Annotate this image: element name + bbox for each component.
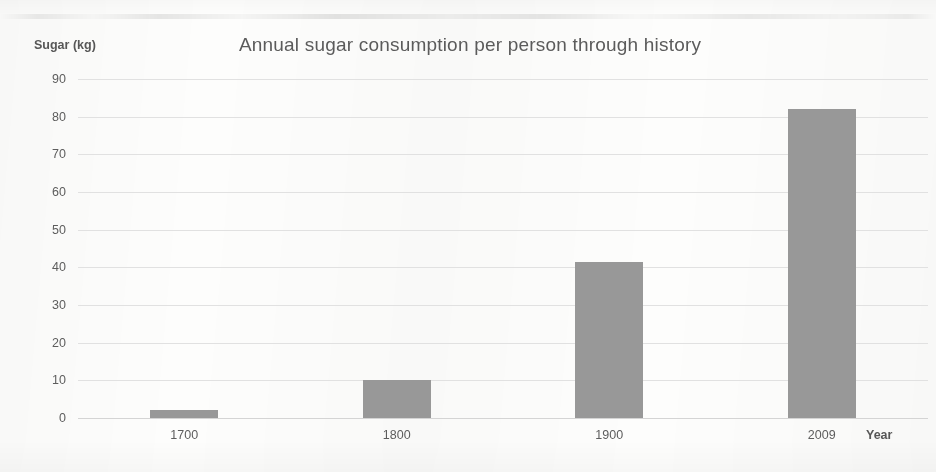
y-axis-tick-label: 90 [26,72,66,86]
bar-1800 [363,380,431,418]
y-axis-tick-label: 80 [26,110,66,124]
x-axis-tick-label: 1700 [170,428,198,442]
y-axis-tick-label: 50 [26,223,66,237]
bar-1700 [150,410,218,418]
x-axis-tick-label: 1900 [595,428,623,442]
x-axis-tick-label: 2009 [808,428,836,442]
chart-title: Annual sugar consumption per person thro… [150,34,790,56]
scanned-chart-page: Annual sugar consumption per person thro… [0,0,936,472]
y-axis-tick-label: 20 [26,336,66,350]
gridline [78,418,928,419]
x-axis-title: Year [866,428,892,442]
y-axis-tick-label: 10 [26,373,66,387]
bar-2009 [788,109,856,418]
y-axis-tick-labels: 9080706050403020100 [22,79,66,418]
y-axis-tick-label: 70 [26,147,66,161]
y-axis-title: Sugar (kg) [34,38,96,52]
y-axis-tick-label: 60 [26,185,66,199]
plot-area [78,79,928,418]
y-axis-tick-label: 40 [26,260,66,274]
y-axis-tick-label: 0 [26,411,66,425]
x-axis-tick-label: 1800 [383,428,411,442]
gridline [78,79,928,80]
y-axis-tick-label: 30 [26,298,66,312]
bar-1900 [575,262,643,418]
bar-chart: Annual sugar consumption per person thro… [0,0,936,472]
